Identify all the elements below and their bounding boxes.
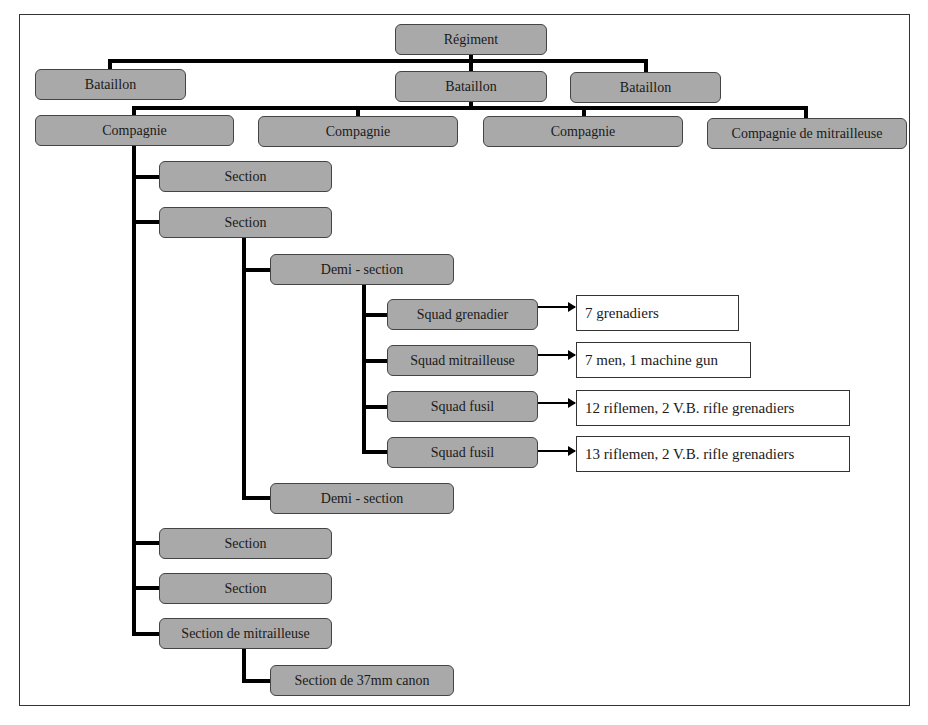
arrow-icon [537,450,575,452]
node-section: Section [159,573,332,604]
connector [804,106,808,118]
connector [132,220,160,224]
connector [132,541,160,545]
node-section: Section [159,207,332,238]
connector [469,101,473,109]
connector [132,632,160,636]
node-section: Section [159,528,332,559]
arrow-icon [537,306,575,308]
node-section: Section [159,161,332,192]
node-company: Compagnie [258,116,458,147]
connector [469,55,473,71]
node-section-37mm-cannon: Section de 37mm canon [270,665,454,696]
node-company: Compagnie [35,115,234,146]
connector [242,679,271,683]
node-company: Compagnie [483,116,683,147]
arrow-icon [537,354,575,356]
arrow-icon [537,402,575,404]
node-section-machine-gun: Section de mitrailleuse [159,618,332,649]
connector [644,59,648,72]
connector [132,175,160,179]
squad-note: 7 men, 1 machine gun [576,342,751,378]
node-demi-section: Demi - section [270,254,454,285]
connector [242,237,246,499]
node-battalion: Bataillon [395,71,547,102]
connector [242,496,271,500]
connector [362,284,366,454]
connector [362,359,388,363]
node-battalion: Bataillon [570,72,721,103]
connector [362,313,388,317]
connector [242,649,246,682]
squad-note: 7 grenadiers [576,295,739,331]
connector [582,106,586,116]
connector [108,59,648,63]
node-squad-rifle: Squad fusil [387,437,538,468]
node-squad-grenadier: Squad grenadier [387,299,538,330]
node-battalion: Bataillon [35,69,186,100]
squad-note: 12 riflemen, 2 V.B. rifle grenadiers [576,390,850,426]
node-squad-machine-gun: Squad mitrailleuse [387,345,538,376]
connector [242,268,271,272]
connector [132,586,160,590]
connector [362,405,388,409]
connector [356,106,360,116]
node-demi-section: Demi - section [270,483,454,514]
squad-note: 13 riflemen, 2 V.B. rifle grenadiers [576,436,850,472]
connector [362,450,388,454]
node-squad-rifle: Squad fusil [387,391,538,422]
node-company-machine-gun: Compagnie de mitrailleuse [707,118,907,149]
node-regiment: Régiment [395,24,547,55]
